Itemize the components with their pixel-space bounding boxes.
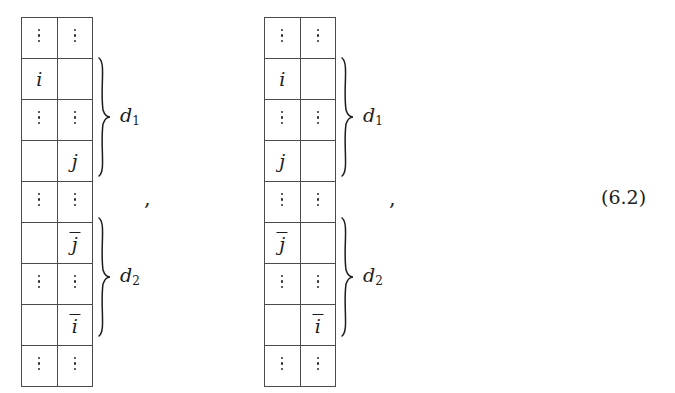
matrix-row: j (22, 223, 93, 264)
brace-label-d2-matrix-right: d2 (363, 266, 383, 287)
matrix-row: j (22, 141, 93, 182)
matrix-cell-r8c2: i (57, 305, 93, 346)
matrix-row: i (22, 305, 93, 346)
brace-label-d2-matrix-left: d2 (120, 266, 140, 287)
matrix-cell-r8c1 (22, 305, 58, 346)
matrix-cell-r2c2 (300, 59, 336, 100)
matrix-cell-r8c1 (265, 305, 301, 346)
matrix-cell-r6c1 (22, 223, 58, 264)
vertical-dots-icon (74, 25, 76, 46)
matrix-cell-r6c2: j (57, 223, 93, 264)
brace-d2-matrix-right (339, 217, 355, 337)
matrix-row (22, 346, 93, 387)
matrix-cell-r4c2 (300, 141, 336, 182)
symbol-j: j (279, 152, 285, 171)
vertical-dots-icon (38, 189, 40, 210)
symbol-jbar: j (72, 233, 78, 254)
matrix-row (265, 100, 336, 141)
matrix-cell-r2c1: i (22, 59, 58, 100)
brace-label-subscript: 1 (375, 114, 383, 128)
matrix-cell-r2c2 (57, 59, 93, 100)
brace-d1-matrix-right (339, 57, 355, 177)
brace-d2-matrix-left (96, 217, 112, 337)
matrix-cell-r7c1 (265, 264, 301, 305)
matrix-cell-r7c2 (300, 264, 336, 305)
matrix-row (265, 18, 336, 59)
equation-number: (6.2) (601, 188, 646, 207)
matrix-cell-r9c1 (22, 346, 58, 387)
matrix-cell-r5c1 (265, 182, 301, 223)
matrix-cell-r8c2: i (300, 305, 336, 346)
brace-d1-matrix-left (96, 57, 112, 177)
matrix-row: i (265, 59, 336, 100)
matrix-cell-r4c1: j (265, 141, 301, 182)
vertical-dots-icon (317, 271, 319, 292)
matrix-cell-r1c1 (265, 18, 301, 59)
vertical-dots-icon (38, 25, 40, 46)
vertical-dots-icon (38, 271, 40, 292)
matrix-cell-r1c1 (22, 18, 58, 59)
separator-comma-2: , (389, 188, 396, 209)
matrix-row (265, 264, 336, 305)
matrix-row: j (265, 141, 336, 182)
matrix-cell-r6c2 (300, 223, 336, 264)
matrix-left: ijji (21, 17, 93, 387)
brace-label-subscript: 2 (132, 274, 140, 288)
matrix-cell-r9c2 (300, 346, 336, 387)
vertical-dots-icon (74, 107, 76, 128)
brace-label-base: d (363, 264, 375, 286)
matrix-cell-r6c1: j (265, 223, 301, 264)
symbol-i: i (36, 70, 42, 89)
symbol-jbar: j (279, 233, 285, 254)
vertical-dots-icon (317, 25, 319, 46)
brace-label-base: d (120, 264, 132, 286)
vertical-dots-icon (74, 189, 76, 210)
matrix-row (22, 100, 93, 141)
matrix-cell-r9c2 (57, 346, 93, 387)
matrix-cell-r2c1: i (265, 59, 301, 100)
brace-label-base: d (120, 104, 132, 126)
matrix-cell-r4c2: j (57, 141, 93, 182)
symbol-i: i (279, 70, 285, 89)
matrix-cell-r7c1 (22, 264, 58, 305)
equation-figure: ijjid1d2ijjid1d2 , , (6.2) (0, 0, 675, 393)
brace-label-subscript: 1 (132, 114, 140, 128)
matrix-row (265, 182, 336, 223)
vertical-dots-icon (74, 271, 76, 292)
vertical-dots-icon (281, 25, 283, 46)
brace-label-d1-matrix-left: d1 (120, 106, 140, 127)
symbol-ibar: i (72, 315, 78, 336)
matrix-cell-r3c1 (22, 100, 58, 141)
matrix-cell-r4c1 (22, 141, 58, 182)
matrix-row (22, 264, 93, 305)
matrix-row (22, 182, 93, 223)
symbol-ibar: i (315, 315, 321, 336)
matrix-row (265, 346, 336, 387)
vertical-dots-icon (281, 353, 283, 374)
brace-label-subscript: 2 (375, 274, 383, 288)
separator-comma-1: , (144, 188, 151, 209)
vertical-dots-icon (38, 107, 40, 128)
matrix-row: i (265, 305, 336, 346)
matrix-row (22, 18, 93, 59)
vertical-dots-icon (281, 107, 283, 128)
matrix-cell-r3c1 (265, 100, 301, 141)
matrix-cell-r1c2 (300, 18, 336, 59)
brace-label-d1-matrix-right: d1 (363, 106, 383, 127)
vertical-dots-icon (317, 353, 319, 374)
matrix-cell-r3c2 (300, 100, 336, 141)
matrix-cell-r9c1 (265, 346, 301, 387)
vertical-dots-icon (74, 353, 76, 374)
matrix-cell-r1c2 (57, 18, 93, 59)
matrix-cell-r5c2 (57, 182, 93, 223)
matrix-right: ijji (264, 17, 336, 387)
vertical-dots-icon (317, 189, 319, 210)
matrix-row: j (265, 223, 336, 264)
brace-label-base: d (363, 104, 375, 126)
vertical-dots-icon (317, 107, 319, 128)
matrix-cell-r5c2 (300, 182, 336, 223)
vertical-dots-icon (281, 189, 283, 210)
matrix-row: i (22, 59, 93, 100)
matrix-cell-r5c1 (22, 182, 58, 223)
matrix-cell-r7c2 (57, 264, 93, 305)
